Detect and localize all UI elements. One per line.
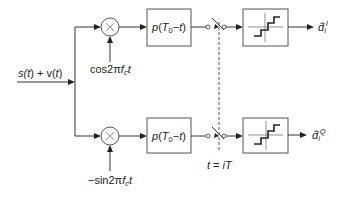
carrier-label-sin: −sin2πfct	[88, 174, 133, 188]
arrow	[300, 132, 307, 138]
sampling-time-label: t = iT	[207, 159, 233, 171]
arrow	[236, 133, 243, 139]
arrow	[94, 24, 101, 30]
input-signal-label: s(t) + v(t)	[18, 67, 62, 79]
sampling-switch-icon	[206, 18, 226, 30]
branch-quadrature: −sin2πfct p(T0−t) d̂iQ	[75, 118, 326, 188]
branch-in-phase: cos2πfct p(T0−t) d̂iI	[75, 9, 328, 77]
carrier-label-cos: cos2πfct	[90, 63, 132, 77]
output-label-quadrature: d̂iQ	[312, 127, 326, 143]
matched-filter-label: p(T0−t)	[151, 21, 186, 35]
arrow	[307, 24, 314, 30]
staircase-quantizer-icon	[243, 9, 288, 46]
matched-filter-label: p(T0−t)	[151, 130, 186, 144]
receiver-diagram: s(t) + v(t) cos2πfct p(T0−t)	[0, 0, 341, 198]
output-label-in-phase: d̂iI	[318, 19, 328, 35]
arrow	[94, 133, 101, 139]
multiplier-icon	[101, 18, 119, 36]
arrow	[236, 24, 243, 30]
staircase-quantizer-icon	[243, 118, 288, 153]
input-arrow	[68, 79, 75, 85]
arrow	[140, 133, 147, 139]
arrow	[107, 145, 113, 152]
arrow	[107, 36, 113, 43]
arrow	[140, 24, 147, 30]
sampling-switch-icon	[206, 127, 226, 139]
multiplier-icon	[101, 127, 119, 145]
